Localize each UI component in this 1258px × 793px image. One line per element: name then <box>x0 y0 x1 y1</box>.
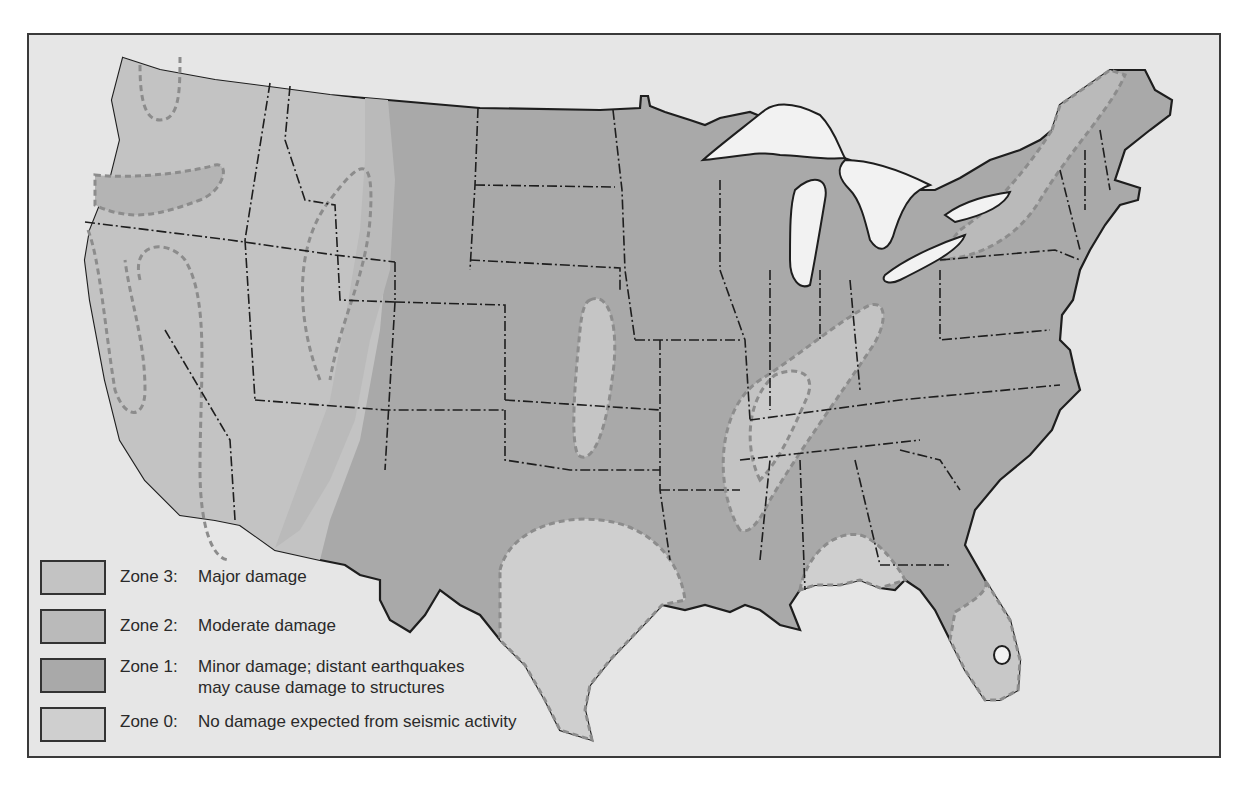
zone-0-description: No damage expected from seismic activity <box>198 711 516 732</box>
zone-3-swatch <box>40 560 106 595</box>
zone-2-label: Zone 2: <box>120 615 198 636</box>
zone-3-label: Zone 3: <box>120 566 198 587</box>
zone-1-description-line2: may cause damage to structures <box>198 678 445 697</box>
zone-3-west <box>85 58 388 560</box>
zone-2-swatch <box>40 609 106 644</box>
legend-item-zone-2: Zone 2:Moderate damage <box>40 609 336 644</box>
zone-0-swatch <box>40 707 106 742</box>
zone-1-description: Minor damage; distant earthquakes <box>198 657 465 676</box>
lake-okeechobee <box>994 646 1010 664</box>
zone-3-description: Major damage <box>198 566 307 587</box>
legend-item-zone-0: Zone 0:No damage expected from seismic a… <box>40 707 516 742</box>
zone-1-description-block: Minor damage; distant earthquakesmay cau… <box>198 656 465 698</box>
zone-1-label: Zone 1: <box>120 656 198 677</box>
zone-0-label: Zone 0: <box>120 711 198 732</box>
zone-0-texas <box>500 519 685 740</box>
legend-item-zone-3: Zone 3:Major damage <box>40 560 307 595</box>
zone-2-description: Moderate damage <box>198 615 336 636</box>
zone-1-swatch <box>40 658 106 693</box>
legend-item-zone-1: Zone 1:Minor damage; distant earthquakes… <box>40 658 465 698</box>
